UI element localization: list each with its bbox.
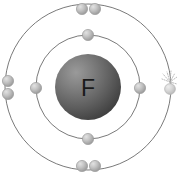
electron-inner-left[interactable] [30,82,41,93]
electron-inner-top[interactable] [82,29,93,40]
nucleus-element-symbol: F [81,75,95,101]
electron-outer-left-upper[interactable] [2,75,13,86]
electron-inner-right[interactable] [134,82,145,93]
electron-inner-bottom[interactable] [82,133,93,144]
electron-outer-top-right[interactable] [89,3,100,14]
electron-outer-bottom-right[interactable] [89,160,100,171]
electron-outer-right-marked[interactable] [165,84,176,95]
electron-outer-top-left[interactable] [76,3,87,14]
bohr-model-diagram: F [0,0,177,174]
nucleus[interactable]: F [55,54,121,120]
atom-diagram-canvas: F [0,0,177,174]
electron-outer-bottom-left[interactable] [76,160,87,171]
electron-outer-left-lower[interactable] [2,88,13,99]
